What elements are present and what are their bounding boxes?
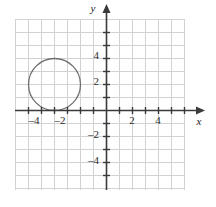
x-tick-label-4: 4: [155, 114, 161, 126]
y-tick-label-neg2: –2: [87, 128, 99, 140]
graph-canvas: –4 –2 2 4 4 2 –2 –4 x y: [0, 0, 216, 207]
coordinate-plane-figure: –4 –2 2 4 4 2 –2 –4 x y: [0, 0, 216, 207]
x-tick-label-neg2: –2: [54, 114, 66, 126]
x-tick-label-neg4: –4: [28, 114, 41, 126]
y-axis-label: y: [90, 2, 96, 14]
y-tick-label-4: 4: [94, 49, 100, 61]
y-tick-label-2: 2: [94, 75, 100, 87]
x-tick-label-2: 2: [129, 114, 135, 126]
y-tick-label-neg4: –4: [87, 154, 100, 166]
x-axis-label: x: [196, 115, 202, 127]
